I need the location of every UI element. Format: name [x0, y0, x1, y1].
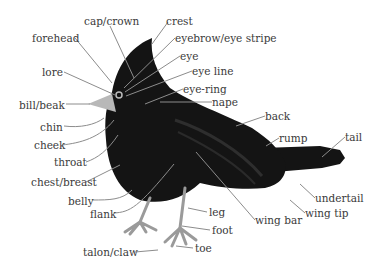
label-belly: belly: [68, 196, 94, 207]
label-lore: lore: [42, 67, 63, 78]
label-eye-ring: eye-ring: [183, 84, 227, 95]
label-eyebrow-eye-stripe: eyebrow/eye stripe: [175, 33, 277, 44]
bird-body: [105, 38, 285, 202]
bird-anatomy-diagram: cap/crown crest forehead eyebrow/eye str…: [0, 0, 378, 267]
label-wing-bar: wing bar: [255, 215, 302, 226]
label-cheek: cheek: [34, 140, 65, 151]
label-toe: toe: [195, 243, 212, 254]
label-leg: leg: [209, 207, 225, 218]
label-talon-claw: talon/claw: [83, 247, 138, 258]
label-cap-crown: cap/crown: [84, 16, 139, 27]
label-chin: chin: [40, 122, 63, 133]
bird-beak: [88, 94, 116, 112]
bird-eye: [116, 92, 122, 98]
label-eye: eye: [180, 51, 198, 62]
label-foot: foot: [212, 225, 233, 236]
label-nape: nape: [212, 97, 238, 108]
label-back: back: [265, 111, 290, 122]
label-rump: rump: [279, 133, 307, 144]
label-throat: throat: [54, 157, 87, 168]
label-tail: tail: [345, 132, 362, 143]
label-undertail: undertail: [315, 193, 364, 204]
label-chest-breast: chest/breast: [31, 177, 97, 188]
label-crest: crest: [166, 16, 193, 27]
label-bill-beak: bill/beak: [19, 100, 65, 111]
label-eye-line: eye line: [192, 66, 233, 77]
label-forehead: forehead: [32, 33, 79, 44]
label-flank: flank: [90, 209, 116, 220]
label-wing-tip: wing tip: [305, 208, 348, 219]
